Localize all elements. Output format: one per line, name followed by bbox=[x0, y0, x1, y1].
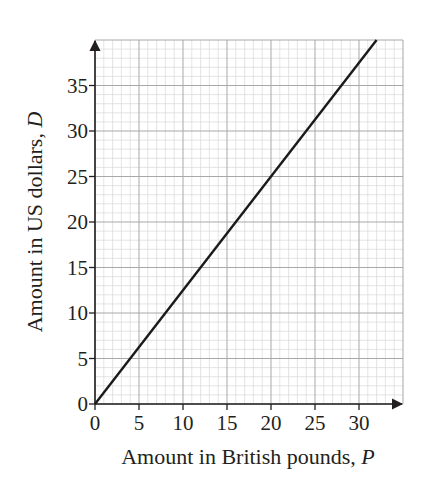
y-axis-title: Amount in US dollars, D bbox=[22, 112, 47, 333]
x-tick-label: 30 bbox=[349, 411, 370, 435]
y-tick-labels: 05101520253035 bbox=[67, 74, 88, 417]
y-tick-label: 35 bbox=[67, 74, 88, 98]
y-tick-label: 30 bbox=[67, 119, 88, 143]
grid bbox=[95, 40, 403, 404]
y-tick-label: 15 bbox=[67, 256, 88, 280]
y-tick-label: 20 bbox=[67, 210, 88, 234]
y-tick-label: 5 bbox=[78, 347, 89, 371]
conversion-chart: 051015202530 05101520253035 Amount in Br… bbox=[0, 0, 430, 485]
x-tick-label: 20 bbox=[261, 411, 282, 435]
x-tick-label: 15 bbox=[217, 411, 238, 435]
y-tick-label: 0 bbox=[78, 392, 89, 416]
x-tick-label: 0 bbox=[90, 411, 101, 435]
x-tick-label: 25 bbox=[305, 411, 326, 435]
x-tick-label: 5 bbox=[134, 411, 145, 435]
y-tick-label: 10 bbox=[67, 301, 88, 325]
y-tick-label: 25 bbox=[67, 165, 88, 189]
x-axis-title: Amount in British pounds, P bbox=[121, 444, 375, 469]
x-tick-label: 10 bbox=[173, 411, 194, 435]
x-tick-labels: 051015202530 bbox=[90, 411, 370, 435]
